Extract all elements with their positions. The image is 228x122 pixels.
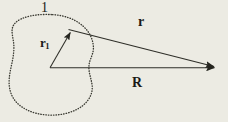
vector-label-R: R [132, 76, 142, 90]
figure-canvas [0, 0, 228, 122]
vector-label-r: r [138, 15, 144, 29]
vector-r1-line [50, 33, 70, 68]
region-label-1: 1 [41, 1, 48, 15]
vector-label-r1-subscript: 1 [45, 41, 49, 51]
vector-label-r1: r1 [40, 36, 50, 49]
vector-diagram-figure: 1 r1 r R [0, 0, 228, 122]
